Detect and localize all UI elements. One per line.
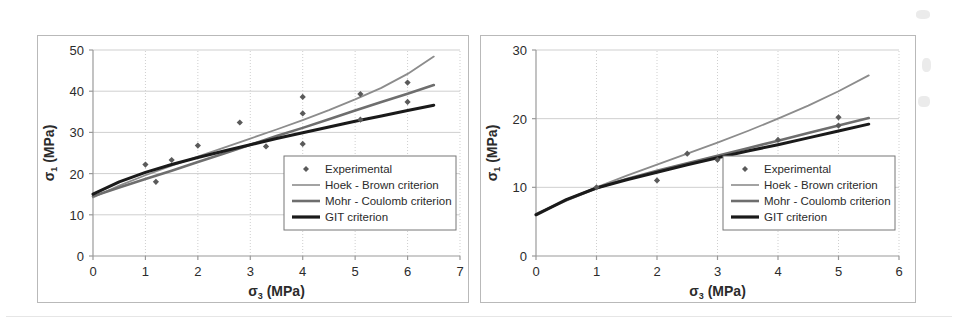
y-tick-label: 10 — [70, 208, 84, 223]
x-tick-label: 6 — [895, 264, 902, 279]
scatter-point — [142, 161, 148, 167]
x-tick-label: 6 — [404, 264, 411, 279]
y-axis-title: σ1 (MPa) — [484, 125, 502, 182]
y-tick-label: 0 — [77, 249, 84, 264]
x-tick-label: 1 — [142, 264, 149, 279]
scatter-point — [654, 177, 660, 183]
y-tick-label: 50 — [70, 43, 84, 58]
chart-left-canvas: 0123456701020304050σ3 (MPa)σ1 (MPa)Exper… — [38, 36, 468, 302]
scatter-point — [153, 179, 159, 185]
legend-item-label: GIT criterion — [764, 211, 827, 223]
legend-item-label: GIT criterion — [325, 211, 388, 223]
chart-panel-left: 0123456701020304050σ3 (MPa)σ1 (MPa)Exper… — [37, 35, 469, 303]
scatter-point — [835, 114, 841, 120]
scatter-point — [300, 110, 306, 116]
x-axis-title: σ3 (MPa) — [689, 283, 746, 301]
scan-artifact-lower — [918, 96, 930, 107]
scatter-point — [404, 99, 410, 105]
legend-item-label: Mohr - Coulomb criterion — [764, 195, 891, 207]
y-tick-label: 20 — [70, 167, 84, 182]
y-tick-label: 0 — [520, 249, 527, 264]
x-tick-label: 2 — [653, 264, 660, 279]
legend-item-label: Hoek - Brown criterion — [764, 179, 878, 191]
scatter-point — [300, 141, 306, 147]
scatter-point — [195, 142, 201, 148]
x-tick-label: 1 — [593, 264, 600, 279]
chart-right-canvas: 01234560102030σ3 (MPa)σ1 (MPa)Experiment… — [481, 36, 915, 302]
x-tick-label: 2 — [194, 264, 201, 279]
x-tick-label: 4 — [299, 264, 306, 279]
figure-container: 0123456701020304050σ3 (MPa)σ1 (MPa)Exper… — [0, 0, 958, 323]
x-tick-label: 7 — [456, 264, 463, 279]
scatter-point — [404, 79, 410, 85]
legend-item-label: Experimental — [764, 163, 831, 175]
x-tick-label: 5 — [352, 264, 359, 279]
scatter-point — [300, 94, 306, 100]
legend-item-label: Hoek - Brown criterion — [325, 179, 439, 191]
y-axis-title: σ1 (MPa) — [41, 125, 59, 182]
x-tick-label: 0 — [532, 264, 539, 279]
y-tick-label: 30 — [70, 125, 84, 140]
scatter-point — [263, 143, 269, 149]
scatter-point — [169, 157, 175, 163]
chart-panel-right: 01234560102030σ3 (MPa)σ1 (MPa)Experiment… — [480, 35, 916, 303]
scatter-point — [684, 151, 690, 157]
x-axis-title: σ3 (MPa) — [248, 283, 305, 301]
scatter-point — [835, 122, 841, 128]
legend-item-label: Mohr - Coulomb criterion — [325, 195, 452, 207]
scatter-point — [237, 119, 243, 125]
x-tick-label: 4 — [774, 264, 781, 279]
legend: ExperimentalHoek - Brown criterionMohr -… — [284, 156, 456, 230]
x-tick-label: 5 — [835, 264, 842, 279]
legend: ExperimentalHoek - Brown criterionMohr -… — [723, 156, 895, 230]
legend-item-label: Experimental — [325, 163, 392, 175]
x-tick-label: 3 — [714, 264, 721, 279]
y-tick-label: 40 — [70, 84, 84, 99]
y-tick-label: 20 — [513, 112, 527, 127]
x-tick-label: 3 — [247, 264, 254, 279]
scan-artifact-top — [916, 10, 930, 19]
scan-artifact-middle — [922, 58, 931, 72]
y-tick-label: 10 — [513, 180, 527, 195]
x-tick-label: 0 — [89, 264, 96, 279]
page-edge-line — [6, 316, 952, 317]
y-tick-label: 30 — [513, 43, 527, 58]
